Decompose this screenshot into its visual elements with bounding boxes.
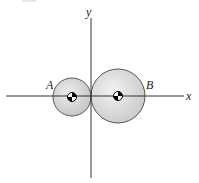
center-of-mass-icon-a xyxy=(68,93,77,102)
sphere-a-label: A xyxy=(45,78,54,92)
sphere-b-label: B xyxy=(146,78,154,92)
y-axis-label: y xyxy=(85,5,92,19)
center-of-mass-icon-b xyxy=(114,92,123,101)
two-spheres-diagram: A B x y xyxy=(0,0,199,183)
x-axis-label: x xyxy=(185,89,192,103)
